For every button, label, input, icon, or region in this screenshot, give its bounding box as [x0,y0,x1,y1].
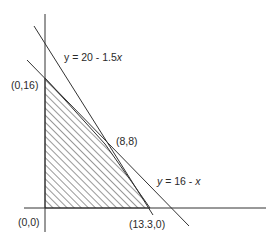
vertex-label-x-intercept: (13.3,0) [129,218,165,230]
vertex-label-y-intercept: (0,16) [11,79,38,91]
feasible-region-diagram: y = 20 - 1.5x y = 16 - x (0,0) (0,16) (8… [0,0,278,247]
vertex-label-intersection: (8,8) [116,135,138,147]
equation-label-steep: y = 20 - 1.5x [64,51,123,63]
diagram-canvas: y = 20 - 1.5x y = 16 - x (0,0) (0,16) (8… [0,0,278,247]
equation-label-shallow: y = 16 - x [156,175,201,187]
vertex-label-origin: (0,0) [18,216,40,228]
